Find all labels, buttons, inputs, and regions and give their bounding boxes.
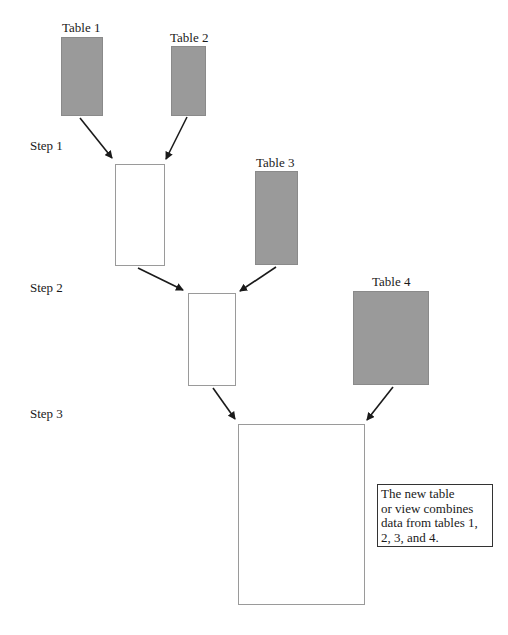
table-1-label: Table 1 — [62, 21, 100, 35]
arrow-table3-to-step2 — [240, 267, 276, 291]
table-1-box — [61, 37, 103, 116]
arrow-step2-to-step3 — [213, 388, 235, 419]
note-line-2: or view combines — [381, 502, 489, 517]
note-line-4: 2, 3, and 4. — [381, 531, 489, 546]
note-line-3: data from tables 1, — [381, 516, 489, 531]
table-2-label: Table 2 — [170, 31, 208, 45]
step-2-result-box — [188, 293, 236, 386]
arrow-table1-to-step1 — [80, 118, 112, 158]
arrow-table2-to-step1 — [166, 117, 187, 159]
table-4-box — [353, 291, 429, 385]
step-2-label: Step 2 — [30, 281, 63, 295]
arrow-table4-to-step3 — [367, 387, 393, 420]
table-3-box — [255, 171, 298, 265]
step-1-result-box — [115, 164, 165, 266]
arrow-step1-to-step2 — [138, 268, 183, 290]
step-3-result-box — [238, 424, 365, 605]
combined-result-note: The new table or view combines data from… — [377, 484, 493, 547]
step-1-label: Step 1 — [30, 139, 63, 153]
table-4-label: Table 4 — [372, 275, 410, 289]
step-3-label: Step 3 — [30, 407, 63, 421]
table-2-box — [171, 46, 206, 116]
note-line-1: The new table — [381, 487, 489, 502]
table-3-label: Table 3 — [256, 156, 294, 170]
